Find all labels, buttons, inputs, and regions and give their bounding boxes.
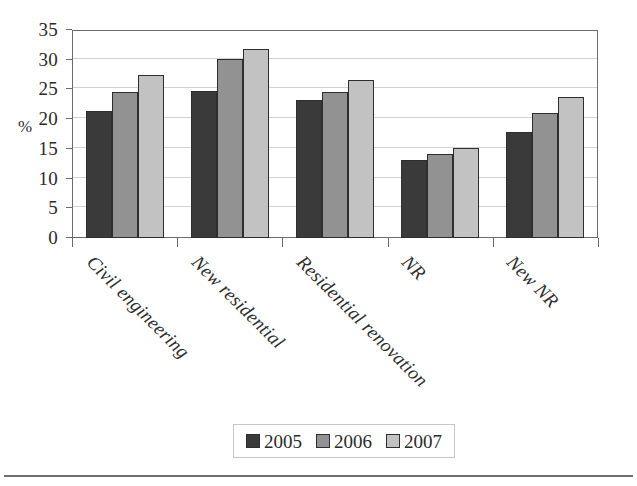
- gridline: [73, 177, 597, 178]
- bar-chart-figure: 05101520253035 % Civil engineeringNew re…: [0, 0, 637, 486]
- y-tick-label: 25: [12, 79, 58, 98]
- legend-swatch: [386, 434, 400, 448]
- legend-label: 2005: [264, 432, 302, 451]
- legend-item: 2005: [246, 432, 302, 451]
- legend-label: 2006: [334, 432, 372, 451]
- gridline: [73, 206, 597, 207]
- y-tick-label: 5: [12, 198, 58, 217]
- x-category-label: New residential: [188, 252, 288, 352]
- x-tick-mark: [493, 238, 494, 247]
- x-category-label: Civil engineering: [83, 252, 192, 361]
- y-tick-label: 0: [12, 228, 58, 247]
- gridline: [73, 147, 597, 148]
- x-tick-mark: [388, 238, 389, 247]
- gridline: [73, 87, 597, 88]
- plot-area: [72, 30, 598, 238]
- x-category-label: New NR: [504, 252, 563, 311]
- gridline: [73, 117, 597, 118]
- x-tick-mark: [177, 238, 178, 247]
- y-tick-label: 10: [12, 169, 58, 188]
- y-tick-label: 35: [12, 20, 58, 39]
- legend-item: 2007: [386, 432, 442, 451]
- x-tick-mark: [598, 238, 599, 247]
- y-axis-title: %: [18, 118, 32, 135]
- legend-label: 2007: [404, 432, 442, 451]
- legend-item: 2006: [316, 432, 372, 451]
- gridline: [73, 58, 597, 59]
- legend-swatch: [246, 434, 260, 448]
- y-tick-label: 15: [12, 139, 58, 158]
- x-category-label: NR: [399, 252, 430, 283]
- x-tick-mark: [72, 238, 73, 247]
- y-axis: 05101520253035: [0, 30, 72, 238]
- bottom-divider: [4, 475, 633, 477]
- legend: 200520062007: [233, 424, 455, 458]
- y-tick-label: 30: [12, 50, 58, 69]
- x-tick-mark: [282, 238, 283, 247]
- legend-swatch: [316, 434, 330, 448]
